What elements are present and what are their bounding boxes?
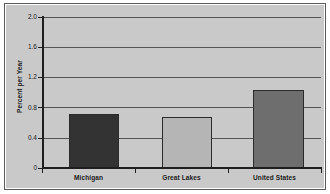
y-tick-label-0: 0 xyxy=(18,164,37,171)
y-tick-label-0-4: 0.4 xyxy=(18,134,37,141)
x-tick-label-michigan: Michigan xyxy=(42,174,135,181)
plot-area xyxy=(42,17,321,168)
y-tick-mark-1-6 xyxy=(38,47,43,48)
x-tick-mark-3 xyxy=(228,169,229,173)
x-tick-mark-2 xyxy=(135,169,136,173)
bar-michigan xyxy=(69,114,119,168)
bar-united-states xyxy=(253,90,304,168)
gridline-1-6 xyxy=(42,47,321,48)
y-tick-label-1-6: 1.6 xyxy=(18,43,37,50)
y-tick-mark-1-2 xyxy=(38,77,43,78)
y-tick-mark-0-4 xyxy=(38,138,43,139)
bar-great-lakes xyxy=(162,117,212,168)
y-tick-mark-2-0 xyxy=(38,17,43,18)
x-tick-label-great-lakes: Great Lakes xyxy=(135,174,228,181)
gridline-1-2 xyxy=(42,77,321,78)
y-axis-title: Percent per Year xyxy=(16,52,23,122)
x-tick-mark-1 xyxy=(42,169,43,173)
x-tick-label-united-states: United States xyxy=(228,174,321,181)
gridline-2-0 xyxy=(42,17,321,18)
x-tick-mark-4 xyxy=(321,169,322,173)
y-tick-label-2-0: 2.0 xyxy=(18,13,37,20)
y-tick-mark-0-8 xyxy=(38,107,43,108)
y-axis-line xyxy=(42,16,44,169)
chart-canvas: 2.0 1.6 1.2 0.8 0.4 0 Percent per Year M… xyxy=(6,5,324,188)
x-axis-line xyxy=(42,167,322,169)
figure: 2.0 1.6 1.2 0.8 0.4 0 Percent per Year M… xyxy=(0,0,330,194)
